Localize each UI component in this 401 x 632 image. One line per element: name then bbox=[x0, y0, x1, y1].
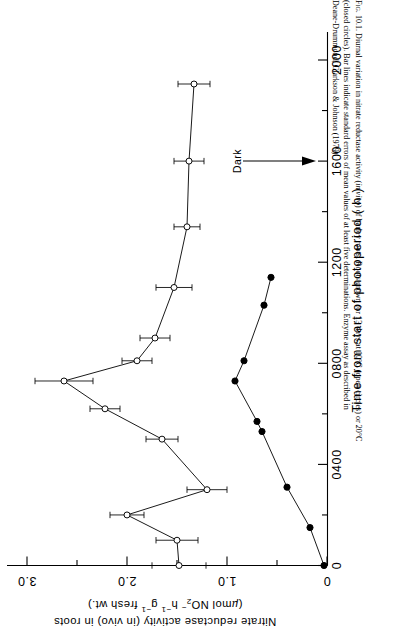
nitrate-reductase-plot: 01.02.03.0 004000800120016002000 Dark Ti… bbox=[0, 0, 366, 632]
caption-line-3: Deane-Drummond, Clarkson & Johnson (1979… bbox=[329, 0, 341, 632]
data-point-open-circle bbox=[191, 81, 197, 87]
value-tick-label: 3.0 bbox=[17, 574, 36, 588]
caption-line-2: (closed circles). Bar lines indicate sta… bbox=[341, 0, 353, 632]
figure-plot-area: 01.02.03.0 004000800120016002000 Dark Ti… bbox=[0, 0, 366, 632]
data-point-open-circle bbox=[186, 158, 192, 164]
value-tick-label: 2.0 bbox=[117, 574, 136, 588]
axis-lines bbox=[7, 32, 328, 566]
data-point-open-circle bbox=[176, 563, 182, 569]
dark-annotation: Dark bbox=[231, 149, 316, 173]
series-closed-circles bbox=[232, 274, 327, 568]
data-point-closed-circle bbox=[307, 524, 313, 530]
series-open-circles bbox=[35, 81, 227, 569]
dark-arrow-icon bbox=[302, 157, 316, 166]
data-point-open-circle bbox=[152, 335, 158, 341]
value-tick-label: 1.0 bbox=[217, 574, 236, 588]
data-point-closed-circle bbox=[259, 428, 265, 434]
series-line bbox=[235, 277, 324, 565]
figure-caption: Fig. 10.1. Diurnal variation in nitrate … bbox=[327, 0, 364, 632]
data-point-open-circle bbox=[184, 224, 190, 230]
value-axis-tick-labels: 01.02.03.0 bbox=[17, 574, 330, 588]
data-point-open-circle bbox=[102, 406, 108, 412]
caption-line-1: Fig. 10.1. Diurnal variation in nitrate … bbox=[352, 0, 364, 632]
data-point-closed-circle bbox=[232, 378, 238, 384]
figure-page: 01.02.03.0 004000800120016002000 Dark Ti… bbox=[0, 0, 401, 632]
data-point-closed-circle bbox=[261, 302, 267, 308]
data-point-open-circle bbox=[124, 512, 130, 518]
data-point-open-circle bbox=[159, 436, 165, 442]
dark-label: Dark bbox=[231, 149, 243, 173]
data-point-closed-circle bbox=[268, 274, 274, 280]
data-point-open-circle bbox=[61, 378, 67, 384]
data-point-closed-circle bbox=[284, 484, 290, 490]
data-point-open-circle bbox=[171, 284, 177, 290]
series-line bbox=[64, 84, 207, 565]
data-point-closed-circle bbox=[241, 358, 247, 364]
data-point-open-circle bbox=[134, 358, 140, 364]
data-point-closed-circle bbox=[254, 418, 260, 424]
y-axis-title-line2: (µmol NO2− h−1 g−1 fresh wt.) bbox=[88, 597, 243, 614]
data-point-open-circle bbox=[174, 537, 180, 543]
y-axis-title-line1: Nitrate reductase activity (in vivo) in … bbox=[54, 616, 277, 628]
data-point-open-circle bbox=[204, 487, 210, 493]
